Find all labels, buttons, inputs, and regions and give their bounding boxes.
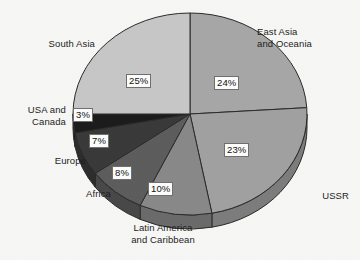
pie-slice-south-asia[interactable]: [73, 13, 190, 114]
slice-value-east-asia: 24%: [214, 76, 239, 90]
slice-label-south-asia: South Asia: [0, 38, 95, 50]
slice-value-ussr: 23%: [224, 143, 249, 157]
slice-value-africa: 8%: [112, 166, 132, 180]
pie-chart-figure: East Asiaand Oceania South Asia USA andC…: [0, 0, 360, 260]
slice-label-europe: Europe: [0, 155, 86, 167]
slice-label-latin-america: Latin Americaand Caribbean: [118, 222, 208, 245]
slice-value-usa-canada: 3%: [73, 108, 93, 122]
slice-value-latin-america: 10%: [148, 182, 173, 196]
slice-label-africa: Africa: [0, 188, 111, 200]
slice-label-usa-canada: USA andCanada: [0, 104, 66, 127]
slice-value-europe: 7%: [89, 134, 109, 148]
slice-label-east-asia: East Asiaand Oceania: [257, 26, 357, 49]
slice-label-ussr: USSR: [289, 190, 349, 202]
slice-value-south-asia: 25%: [126, 74, 151, 88]
